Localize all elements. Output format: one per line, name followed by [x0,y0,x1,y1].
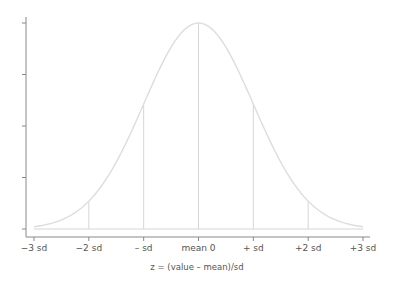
x-tick-label: + sd [243,243,264,253]
x-ticks: −3 sd−2 sd– sdmean 0+ sd+2 sd+3 sd [21,237,377,253]
x-tick-label: −3 sd [21,243,48,253]
x-tick-label: +2 sd [295,243,322,253]
x-tick-label: +3 sd [350,243,377,253]
normal-curve-chart: −3 sd−2 sd– sdmean 0+ sd+2 sd+3 sd z = (… [0,0,394,285]
x-tick-label: – sd [135,243,153,253]
plot-area [34,23,363,229]
x-axis-title: z = (value – mean)/sd [150,262,243,272]
x-tick-label: mean 0 [181,243,215,253]
y-ticks [22,23,26,229]
x-tick-label: −2 sd [76,243,103,253]
